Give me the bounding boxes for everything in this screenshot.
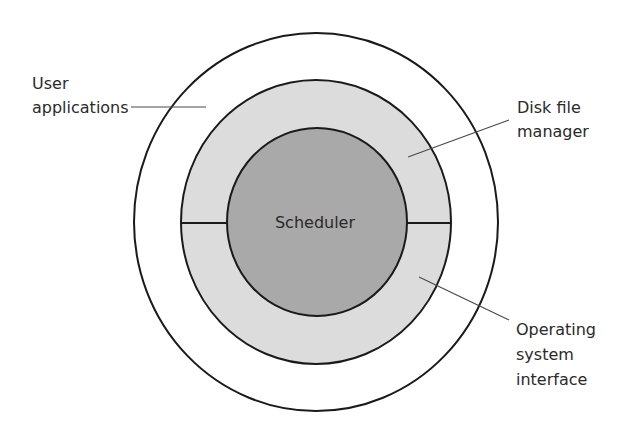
os-interface-label-line2: system — [516, 345, 574, 364]
disk-file-manager-label-line1: Disk file — [517, 98, 581, 117]
scheduler-label: Scheduler — [275, 213, 356, 232]
user-applications-label-line2: applications — [32, 98, 129, 117]
os-interface-label-line1: Operating — [516, 320, 596, 339]
disk-file-manager-label-line2: manager — [517, 122, 589, 141]
os-interface-label-line3: interface — [516, 370, 587, 389]
layered-os-diagram: Scheduler User applications Disk file ma… — [0, 0, 629, 438]
user-applications-label-line1: User — [32, 74, 69, 93]
